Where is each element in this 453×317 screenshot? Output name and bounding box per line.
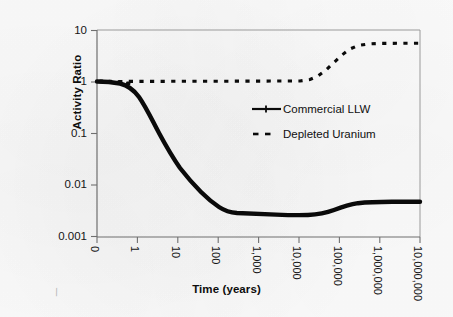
y-axis-title: Activity Ratio <box>71 37 83 147</box>
x-tick-label-1000: 1,000 <box>251 246 263 274</box>
x-tick-label-100: 100 <box>210 246 222 264</box>
legend-label-depleted-uranium: Depleted Uranium <box>283 128 376 140</box>
series-commercial-llw <box>97 82 420 216</box>
x-tick-label-1: 1 <box>129 246 141 252</box>
y-tick-label-0.001: 0.001 <box>44 230 87 242</box>
x-tick-label-0: 0 <box>89 246 101 252</box>
series-depleted-uranium <box>97 43 420 81</box>
legend-label-commercial-llw: Commercial LLW <box>283 103 370 115</box>
y-tick-label-10: 10 <box>44 24 87 36</box>
legend-glyph-commercial-llw <box>252 106 281 113</box>
x-tick-label-100000: 100,000 <box>332 246 344 286</box>
y-tick-label-0.01: 0.01 <box>44 178 87 190</box>
x-tick-label-10000: 10,000 <box>291 246 303 280</box>
chart-figure: 10 1 0.1 0.01 0.001 Activity Ratio 0 1 1… <box>0 0 453 317</box>
x-tick-label-10: 10 <box>170 246 182 258</box>
y-axis-ticks <box>91 31 97 237</box>
x-axis-ticks <box>97 237 420 243</box>
x-axis-title: Time (years) <box>0 283 453 295</box>
plot-canvas <box>0 0 453 317</box>
